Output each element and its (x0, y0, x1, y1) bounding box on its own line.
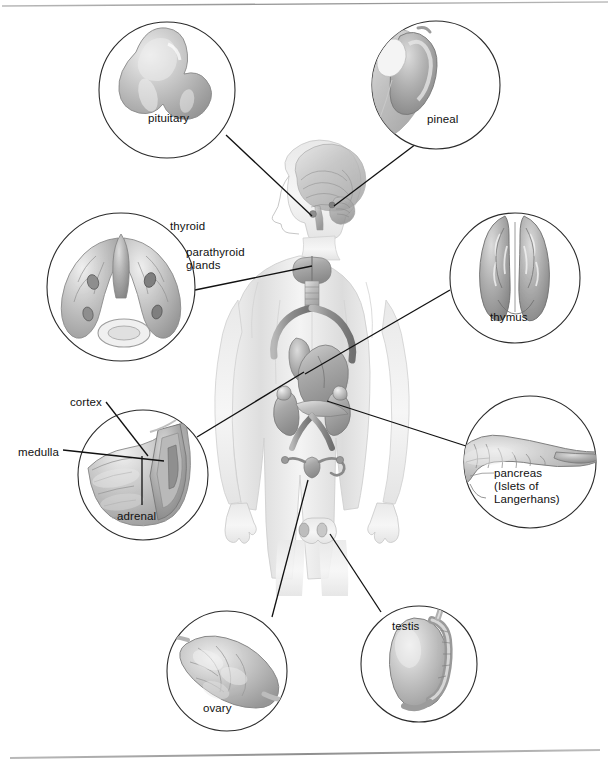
label-ovary: ovary (203, 702, 232, 715)
bottom-rule (10, 750, 600, 758)
label-pineal: pineal (427, 113, 458, 126)
label-testis: testis (392, 620, 419, 633)
callout-pituitary (99, 22, 235, 158)
label-adrenal: adrenal (117, 510, 156, 523)
callout-pineal (366, 21, 500, 149)
callout-thyroid-parathyroid (47, 213, 195, 361)
label-pituitary: pituitary (148, 112, 189, 125)
human-body-figure (215, 140, 409, 596)
callout-testis (361, 590, 477, 722)
top-rule (2, 2, 608, 6)
label-cortex: cortex (70, 396, 102, 409)
label-thymus: thymus (490, 311, 528, 324)
endocrine-diagram-illustration (0, 0, 610, 765)
label-parathyroid-glands: parathyroid glands (186, 246, 245, 272)
diagram-canvas: pituitary pineal thyroid parathyroid gla… (0, 0, 610, 765)
label-thyroid: thyroid (170, 220, 205, 233)
callout-pancreas (440, 396, 604, 528)
label-medulla: medulla (18, 446, 59, 459)
label-pancreas: pancreas (Islets of Langerhans) (494, 467, 560, 506)
